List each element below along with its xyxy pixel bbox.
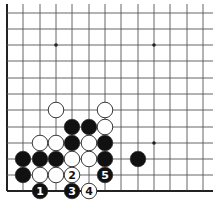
white-stone: [64, 151, 80, 167]
black-stone-move-5: 5: [97, 167, 113, 183]
go-board: 25134: [0, 0, 220, 200]
move-number: 5: [101, 169, 109, 182]
star-point: [152, 43, 156, 47]
black-stone: [64, 119, 80, 135]
move-number: 4: [85, 185, 93, 198]
black-stone: [48, 151, 64, 167]
black-stone-move-1: 1: [32, 183, 48, 199]
white-stone: [81, 135, 97, 151]
move-number: 1: [36, 185, 44, 198]
white-stone: [32, 135, 48, 151]
white-stone-move-2: 2: [64, 167, 80, 183]
move-number: 3: [68, 185, 76, 198]
black-stone-move-3: 3: [64, 183, 80, 199]
black-stone: [130, 151, 146, 167]
black-stone: [97, 151, 113, 167]
white-stone-move-4: 4: [81, 183, 97, 199]
black-stone: [97, 135, 113, 151]
white-stone: [97, 119, 113, 135]
white-stone: [48, 167, 64, 183]
white-stone: [48, 135, 64, 151]
white-stone: [32, 167, 48, 183]
white-stone: [97, 102, 113, 118]
stones: 25134: [15, 102, 146, 199]
white-stone: [48, 102, 64, 118]
move-number: 2: [68, 169, 76, 182]
black-stone: [15, 151, 31, 167]
white-stone: [81, 151, 97, 167]
black-stone: [15, 167, 31, 183]
black-stone: [32, 151, 48, 167]
star-point: [54, 43, 58, 47]
star-point: [152, 141, 156, 145]
black-stone: [81, 119, 97, 135]
black-stone: [64, 135, 80, 151]
